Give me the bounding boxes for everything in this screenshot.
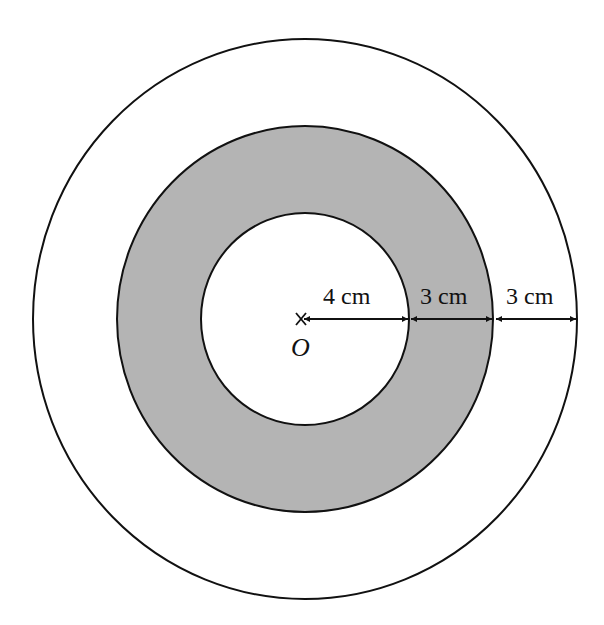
- concentric-circles-diagram: O 4 cm 3 cm 3 cm: [0, 0, 604, 625]
- dimension-label-3cm-outer: 3 cm: [506, 283, 554, 309]
- dimension-label-4cm: 4 cm: [323, 283, 371, 309]
- dimension-label-3cm-ring: 3 cm: [420, 283, 468, 309]
- center-label: O: [291, 333, 310, 362]
